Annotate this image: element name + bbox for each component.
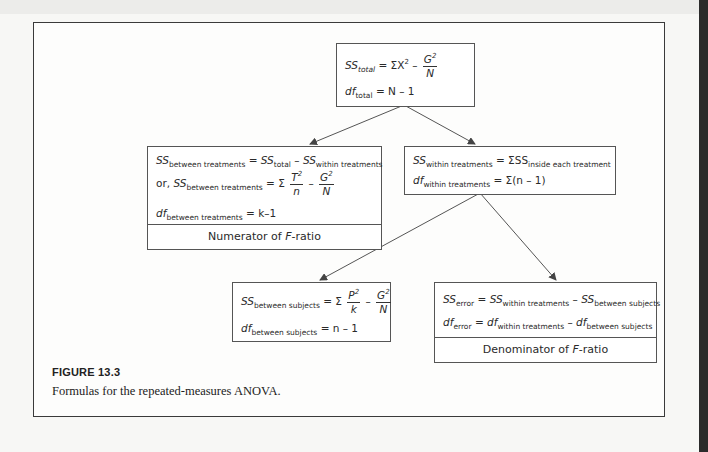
subscript: total: [355, 91, 372, 100]
exponent: 2: [355, 288, 359, 296]
ss-symbol: SS: [581, 293, 594, 305]
denominator-label: Denominator of F-ratio: [435, 344, 656, 355]
footer-text: Numerator of: [208, 230, 285, 243]
ss-symbol: SS: [345, 59, 358, 71]
arrow-within-to-error: [480, 193, 556, 280]
arrow-total-to-within-treatments: [404, 105, 475, 144]
numerator: G: [424, 53, 432, 65]
subscript: error: [456, 299, 474, 308]
equals-sum-x: = ΣX: [378, 59, 404, 71]
minus: –: [308, 177, 313, 189]
minus: –: [569, 293, 581, 305]
minus: –: [564, 316, 576, 328]
footer-text: Denominator of: [483, 343, 573, 356]
figure-caption: Formulas for the repeated-measures ANOVA…: [52, 384, 281, 399]
df-total-formula: dftotal = N – 1: [345, 86, 414, 100]
ss-within-treatments-formula: SSwithin treatments = ΣSSinside each tre…: [413, 155, 611, 169]
node-total: SStotal = ΣX2 – G2N dftotal = N – 1: [336, 43, 475, 107]
subscript: between subjects: [254, 301, 320, 310]
equation: = k–1: [246, 207, 276, 219]
denominator: N: [423, 67, 438, 79]
minus: –: [291, 154, 303, 166]
equals-sum-ss: = ΣSS: [496, 154, 528, 166]
ss-between-treatments-alt-formula: or, SSbetween treatments = Σ T2n – G2N: [156, 171, 336, 196]
ss-symbol: SS: [413, 154, 426, 166]
ss-symbol: SS: [490, 293, 503, 305]
figure-label: FIGURE 13.3: [52, 366, 120, 378]
denominator: n: [290, 185, 303, 197]
df-between-treatments-formula: dfbetween treatments = k–1: [156, 208, 276, 222]
fraction-g2-n: G2N: [376, 289, 391, 314]
ss-symbol: SS: [173, 177, 186, 189]
ss-symbol: SS: [443, 293, 456, 305]
fraction-t2-n: T2n: [290, 171, 303, 196]
prefix: or,: [156, 177, 173, 189]
footer-text: -ratio: [579, 343, 608, 356]
exponent: 2: [385, 288, 389, 296]
equals-sum: = Σ: [266, 177, 285, 189]
df-within-treatments-formula: dfwithin treatments = Σ(n – 1): [413, 175, 546, 189]
df-symbol: df: [413, 174, 423, 186]
fraction-p2-k: P2k: [347, 289, 360, 314]
node-within-treatments: SSwithin treatments = ΣSSinside each tre…: [404, 146, 616, 195]
ss-symbol: SS: [241, 295, 254, 307]
df-symbol: df: [241, 322, 251, 334]
subscript: total: [274, 160, 291, 169]
df-symbol: df: [156, 207, 166, 219]
node-between-treatments: SSbetween treatments = SStotal – SSwithi…: [147, 146, 382, 250]
numerator: G: [320, 171, 328, 183]
equals: =: [249, 154, 261, 166]
footer-text: -ratio: [292, 230, 321, 243]
minus: –: [366, 295, 371, 307]
subscript: between subjects: [594, 299, 660, 308]
ss-between-subjects-formula: SSbetween subjects = Σ P2k – G2N: [241, 289, 393, 314]
ss-between-treatments-formula: SSbetween treatments = SStotal – SSwithi…: [156, 155, 383, 169]
ss-error-formula: SSerror = SSwithin treatments – SSbetwee…: [443, 294, 660, 308]
subscript: within treatments: [497, 322, 564, 331]
subscript: between treatments: [169, 160, 245, 169]
df-symbol: df: [443, 316, 453, 328]
arrow-total-to-between-treatments: [310, 105, 404, 144]
equation: = n – 1: [321, 322, 358, 334]
df-symbol: df: [487, 316, 497, 328]
equation: = Σ(n – 1): [493, 174, 545, 186]
subscript: within treatments: [423, 180, 490, 189]
node-error: SSerror = SSwithin treatments – SSbetwee…: [434, 282, 657, 363]
df-symbol: df: [576, 316, 586, 328]
subscript: within treatments: [316, 160, 383, 169]
subscript: within treatments: [503, 299, 570, 308]
denominator: k: [347, 303, 360, 315]
df-symbol: df: [345, 85, 355, 97]
box-divider: [148, 224, 381, 225]
equals: =: [474, 293, 489, 305]
subscript: inside each treatment: [528, 160, 611, 169]
subscript: between subjects: [586, 322, 652, 331]
exponent: 2: [298, 170, 302, 178]
exponent: 2: [404, 58, 408, 66]
exponent: 2: [432, 52, 436, 60]
subscript: between treatments: [166, 213, 242, 222]
df-between-subjects-formula: dfbetween subjects = n – 1: [241, 323, 358, 337]
minus: –: [412, 59, 417, 71]
subscript: between treatments: [186, 183, 262, 192]
fraction-g2-n: G2N: [319, 171, 334, 196]
numerator-label: Numerator of F-ratio: [148, 231, 381, 242]
subscript: error: [453, 322, 471, 331]
df-error-formula: dferror = dfwithin treatments – dfbetwee…: [443, 317, 652, 331]
denominator: N: [376, 303, 391, 315]
ss-symbol: SS: [156, 154, 169, 166]
node-between-subjects: SSbetween subjects = Σ P2k – G2N dfbetwe…: [232, 282, 391, 342]
ss-symbol: SS: [303, 154, 316, 166]
fraction-g2-n: G2N: [423, 53, 438, 78]
ss-symbol: SS: [261, 154, 274, 166]
subscript: total: [358, 65, 375, 74]
equals: =: [472, 316, 487, 328]
equals-sum: = Σ: [323, 295, 342, 307]
box-divider: [435, 337, 656, 338]
subscript: within treatments: [426, 160, 493, 169]
exponent: 2: [328, 170, 332, 178]
equation: = N – 1: [376, 85, 415, 97]
subscript: between subjects: [251, 328, 317, 337]
ss-total-formula: SStotal = ΣX2 – G2N: [345, 53, 439, 78]
denominator: N: [319, 185, 334, 197]
